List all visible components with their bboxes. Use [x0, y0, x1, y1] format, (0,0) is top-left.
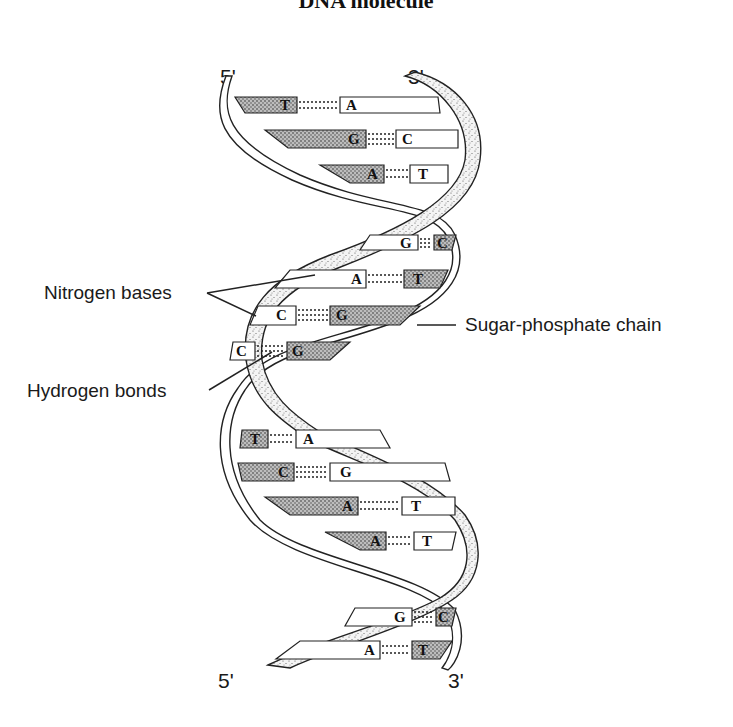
base-pair: A T — [276, 641, 452, 659]
base-label: A — [367, 166, 378, 182]
base-label: A — [342, 498, 353, 514]
base-label: T — [413, 271, 423, 287]
base-pair: T A — [235, 97, 440, 113]
base-label: A — [346, 97, 357, 113]
base-label: C — [276, 307, 287, 323]
end-label-bottom-right: 3' — [448, 669, 464, 692]
base-label: C — [437, 235, 448, 251]
dna-diagram: DNA molecule 5' 3' 5' 3' T A G C — [0, 0, 733, 727]
base-pair: G C — [265, 130, 458, 148]
base-pair: A T — [325, 532, 456, 550]
base-label: C — [438, 609, 449, 625]
base-label: A — [364, 642, 375, 658]
base-pair: A T — [275, 270, 448, 288]
base-pair: C G — [250, 306, 420, 325]
svg-text:Sugar-phosphate chain: Sugar-phosphate chain — [465, 314, 661, 335]
label-sugar-phosphate-chain: Sugar-phosphate chain — [417, 314, 661, 335]
base-label: G — [400, 235, 412, 251]
base-label: A — [370, 533, 381, 549]
diagram-title: DNA molecule — [298, 0, 433, 13]
base-pair: G C — [360, 235, 456, 251]
base-label: G — [348, 131, 360, 147]
base-label: T — [418, 642, 428, 658]
base-label: A — [303, 431, 314, 447]
base-label: C — [236, 343, 247, 359]
base-pair: A T — [265, 497, 455, 515]
base-label: T — [411, 498, 421, 514]
base-label: C — [278, 464, 289, 480]
base-pair: A T — [320, 165, 448, 183]
base-label: T — [250, 431, 260, 447]
sugar-phosphate-strand-front — [245, 72, 480, 668]
base-pair: G C — [345, 608, 456, 626]
base-pair: C G — [230, 342, 350, 360]
base-label: G — [336, 307, 348, 323]
base-label: G — [340, 464, 352, 480]
svg-text:Nitrogen bases: Nitrogen bases — [44, 282, 172, 303]
svg-text:Hydrogen bonds: Hydrogen bonds — [27, 380, 166, 401]
base-label: G — [394, 609, 406, 625]
base-label: C — [402, 131, 413, 147]
base-pair: T A — [240, 430, 390, 448]
base-label: T — [422, 533, 432, 549]
base-label: T — [280, 97, 290, 113]
end-label-bottom-left: 5' — [218, 669, 234, 692]
base-label: A — [351, 271, 362, 287]
base-label: T — [418, 166, 428, 182]
base-pair: C G — [238, 463, 450, 481]
base-label: G — [292, 343, 304, 359]
